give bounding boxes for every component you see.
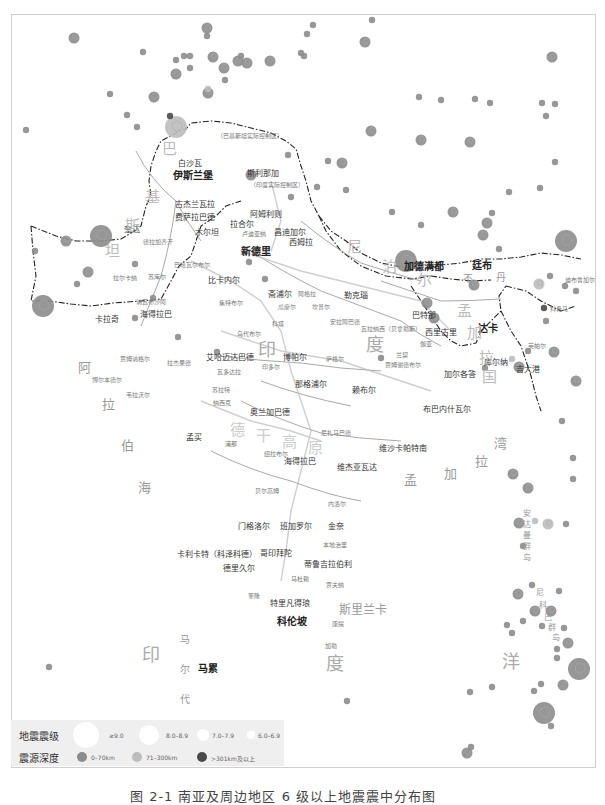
legend-magnitude-9-icon: [73, 722, 99, 748]
legend-magnitude-9-label: ≥9.0: [109, 732, 124, 739]
city-coimbatore: 哥印拜陀: [260, 550, 292, 558]
epicenter-dot: [304, 31, 310, 37]
epicenter-dot: [171, 69, 182, 80]
region-bangladesh-1: 孟: [457, 304, 472, 319]
epicenter-dot: [506, 189, 512, 195]
epicenter-dot: [204, 33, 210, 39]
epicenter-dot: [246, 259, 252, 265]
epicenter-dot: [74, 281, 80, 287]
epicenter-dot: [543, 113, 549, 119]
city-jamnagar: 贾姆讷格尔: [120, 356, 150, 362]
city-bangalore: 班加罗尔: [280, 523, 312, 531]
city-patna: 巴特那: [412, 312, 436, 320]
city-nagpur: 那格浦尔: [295, 381, 327, 389]
city-mumbai: 孟买: [186, 434, 202, 442]
city-nizamabad: 尼扎马巴德: [321, 430, 351, 436]
andaman-4: 群: [523, 543, 531, 551]
legend-depth-intermediate-label: 71–300km: [146, 754, 177, 761]
city-porbandar: 博尔本德尔: [92, 377, 122, 383]
epicenter-dot: [202, 23, 213, 34]
epicenter-dot: [513, 589, 524, 600]
andaman-5: 岛: [523, 554, 531, 562]
city-bikaner: 比卡内尔: [208, 277, 240, 285]
city-hyderabad-pk: 海得拉巴: [140, 311, 172, 319]
epicenter-dot: [571, 376, 582, 387]
region-nepal-1: 尼: [347, 240, 362, 255]
epicenter-dot: [265, 56, 276, 67]
epicenter-dot: [23, 127, 29, 133]
city-belgaum: 贝尔高姆: [255, 488, 279, 494]
city-surat: 苏拉特: [212, 387, 230, 393]
city-pune: 浦那: [225, 441, 237, 447]
epicenter-dot: [310, 22, 316, 28]
epicenter-dot: [523, 483, 534, 494]
ocean-indian-1: 印: [142, 646, 160, 664]
city-pondicherry: 本地治里: [323, 542, 347, 548]
andaman-3: 曼: [523, 532, 531, 540]
epicenter-dot: [181, 53, 187, 59]
epicenter-dot: [314, 184, 320, 190]
srinagar-note: （印度实际控制区）: [250, 182, 304, 188]
city-jaipur: 斋浦尔: [268, 291, 292, 299]
region-bhutan-1: 不: [463, 274, 473, 284]
city-siliguri: 西里古里: [425, 329, 457, 337]
epicenter-dot: [568, 658, 590, 680]
epicenter-dot: [504, 622, 510, 628]
region-india-2: 度: [366, 336, 384, 354]
epicenter-dot: [222, 77, 228, 83]
nicobar-3: 巴: [544, 614, 552, 622]
deccan-4: 原: [308, 441, 323, 456]
epicenter-dot: [509, 630, 515, 636]
sea-arabian-4: 海: [138, 481, 151, 494]
epicenter-dot: [301, 53, 307, 59]
region-pakistan-3: 斯: [125, 219, 140, 234]
city-kochi: 奎隆: [248, 593, 260, 599]
sea-arabian-1: 阿: [78, 361, 91, 374]
city-kota: 科塔: [272, 321, 284, 327]
bay-bengal-1: 孟: [404, 473, 417, 486]
epicenter-dot: [543, 318, 549, 324]
epicenter-dot: [537, 185, 543, 191]
city-bhopal: 博帕尔: [283, 354, 307, 362]
epicenter-dot: [344, 698, 350, 704]
epicenter-dot: [541, 305, 547, 311]
city-kandy: 康提: [332, 621, 344, 627]
epicenter-dot: [46, 664, 52, 670]
epicenter-dot: [573, 288, 579, 294]
region-pakistan-1: 巴: [162, 142, 177, 157]
epicenter-dot: [219, 63, 230, 74]
epicenter-dot: [467, 689, 473, 695]
epicenter-dot: [563, 638, 574, 649]
epicenter-dot: [547, 52, 558, 63]
region-pakistan-2: 基: [145, 190, 160, 205]
epicenter-dot: [558, 680, 569, 691]
epicenter-dot: [205, 86, 211, 92]
region-bangladesh-4: 国: [482, 370, 497, 385]
figure-caption: 图 2-1 南亚及周边地区 6 级以上地震震中分布图: [130, 786, 436, 805]
epicenter-dot: [32, 295, 54, 317]
epicenter-dot: [496, 246, 502, 252]
city-mangalore: 门格洛尔: [238, 523, 270, 531]
city-chennai: 金奈: [328, 523, 344, 531]
epicenter-dot: [83, 267, 94, 278]
city-ludhiana: 卢迪亚纳: [242, 231, 266, 237]
epicenter-dot: [552, 159, 558, 165]
epicenter-dot: [534, 279, 545, 290]
nicobar-2: 科: [539, 602, 547, 610]
city-madurai: 马杜赖: [291, 576, 309, 582]
epicenter-dot: [262, 276, 268, 282]
region-india-1: 印: [258, 341, 276, 359]
city-calicut: 卡利卡特（科泽科德）: [177, 551, 257, 559]
epicenter-dot: [140, 49, 146, 55]
legend-depth-shallow-label: 0–70km: [91, 754, 115, 761]
epicenter-dot: [531, 688, 537, 694]
epicenter-dot: [509, 356, 515, 362]
epicenter-dot: [167, 113, 173, 119]
legend-magnitude-6-icon: [247, 731, 255, 739]
legend-magnitude-8-label: 8.0–8.9: [166, 732, 188, 739]
maldives-1: 马: [180, 635, 190, 645]
epicenter-dot: [173, 57, 179, 63]
epicenter-dot: [468, 744, 474, 750]
epicenter-dot: [570, 455, 576, 461]
legend-magnitude-8-icon: [139, 725, 159, 745]
